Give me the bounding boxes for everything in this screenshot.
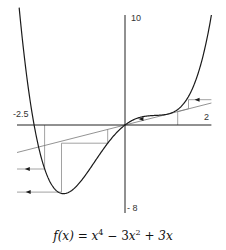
arrowhead-icon xyxy=(25,167,30,171)
formula-equals: = xyxy=(78,229,88,243)
arrowhead-icon xyxy=(26,190,31,194)
x-max-label: 2 xyxy=(204,113,209,122)
arrowhead-icon xyxy=(195,98,200,102)
cobweb-paths xyxy=(17,100,211,192)
formula-term2-coef: 3 xyxy=(121,229,129,243)
formula-term1-exp: 4 xyxy=(98,228,103,237)
formula-term2-exp: 2 xyxy=(136,228,141,237)
function-plot xyxy=(0,0,226,225)
function-curve xyxy=(19,8,211,194)
y-min-label: - 8 xyxy=(127,204,138,213)
left-cobweb-2 xyxy=(17,129,108,192)
function-formula: f(x) = x4 − 3x2 + 3x xyxy=(0,229,226,243)
y-max-label: 10 xyxy=(131,14,141,23)
left-cobweb-1 xyxy=(17,125,45,169)
x-min-label: -2.5 xyxy=(13,110,29,119)
identity-line xyxy=(17,103,211,153)
formula-term3: 3x xyxy=(158,229,172,243)
formula-term2-base: x xyxy=(129,229,136,243)
formula-plus: + xyxy=(144,229,154,243)
formula-lhs: f(x) xyxy=(53,229,74,243)
formula-minus: − xyxy=(107,229,117,243)
